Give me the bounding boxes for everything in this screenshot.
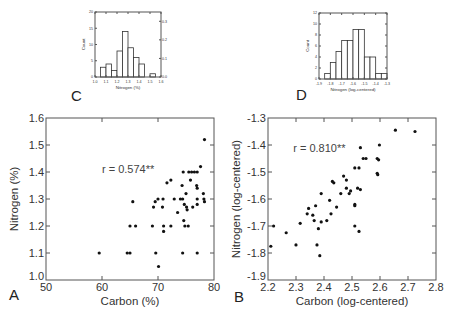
histogram-bar bbox=[106, 64, 112, 77]
data-point bbox=[162, 230, 165, 233]
data-point bbox=[128, 251, 131, 254]
y-tick-label: 1.5 bbox=[29, 139, 44, 151]
y-tick-label: 0 bbox=[315, 77, 317, 81]
data-point bbox=[320, 220, 323, 223]
data-point bbox=[187, 224, 190, 227]
data-point bbox=[186, 208, 189, 211]
y-tick-label: 6 bbox=[315, 44, 317, 48]
y-tick-label: 20 bbox=[89, 10, 93, 14]
y-tick-label: -1.7 bbox=[247, 220, 266, 232]
y-tick-label: 1.6 bbox=[29, 112, 44, 124]
data-point bbox=[311, 214, 314, 217]
x-tick-label: 1.5 bbox=[148, 80, 153, 84]
data-point bbox=[181, 197, 184, 200]
data-point bbox=[328, 199, 331, 202]
histogram-panel-d: -1.9-1.8-1.7-1.6-1.5-1.4-1.3024681012Nit… bbox=[296, 11, 390, 103]
y-tick-label: 1.2 bbox=[29, 220, 44, 232]
histogram-bar bbox=[353, 30, 359, 80]
panel-label: C bbox=[71, 87, 82, 104]
histogram-bar bbox=[381, 74, 387, 80]
x-tick-label: 60 bbox=[96, 281, 108, 293]
x-tick-label: 2.3 bbox=[288, 281, 303, 293]
data-point bbox=[377, 158, 380, 161]
histogram-bar bbox=[336, 52, 342, 80]
data-point bbox=[349, 189, 352, 192]
data-point bbox=[339, 192, 342, 195]
data-point bbox=[173, 197, 176, 200]
histogram-bar bbox=[347, 41, 353, 80]
y-tick-label: -1.5 bbox=[247, 166, 266, 178]
histogram-panel-c: 1.01.11.21.31.41.51.6051015200.00.10.20.… bbox=[71, 10, 167, 104]
y-tick-label: -1.4 bbox=[247, 139, 266, 151]
histogram-bar bbox=[325, 74, 331, 80]
data-point bbox=[183, 203, 186, 206]
y-tick-label: 10 bbox=[313, 22, 317, 26]
data-point bbox=[318, 254, 321, 257]
data-point bbox=[152, 206, 155, 209]
data-point bbox=[165, 181, 168, 184]
y-tick-label: 10 bbox=[89, 43, 93, 47]
x-tick-label: 1.2 bbox=[115, 80, 120, 84]
y-tick-label: 0 bbox=[91, 75, 93, 79]
panel-label: D bbox=[296, 86, 307, 103]
x-tick-label: 2.8 bbox=[428, 281, 443, 293]
data-point bbox=[151, 224, 154, 227]
y2-tick-label: 0.3 bbox=[162, 20, 167, 24]
histogram-bar bbox=[112, 71, 118, 78]
data-point bbox=[348, 192, 351, 195]
x-tick-label: 70 bbox=[152, 281, 164, 293]
x-tick-label: 2.7 bbox=[400, 281, 415, 293]
data-point bbox=[294, 243, 297, 246]
x-axis-title: Carbon (%) bbox=[101, 295, 160, 307]
data-point bbox=[203, 138, 206, 141]
panel-label: A bbox=[9, 286, 19, 303]
data-point bbox=[196, 203, 199, 206]
data-point bbox=[176, 211, 179, 214]
histogram-bar bbox=[139, 64, 145, 77]
x-tick-label: -1.5 bbox=[361, 82, 367, 86]
y-tick-label: -1.6 bbox=[247, 193, 266, 205]
histogram-bar bbox=[128, 48, 134, 77]
data-point bbox=[183, 224, 186, 227]
histogram-bar bbox=[101, 67, 107, 77]
data-point bbox=[353, 166, 356, 169]
data-point bbox=[161, 197, 164, 200]
y-tick-label: 1.1 bbox=[29, 247, 44, 259]
x-axis-title: Carbon (log-centered) bbox=[296, 295, 409, 307]
data-point bbox=[195, 184, 198, 187]
data-point bbox=[161, 206, 164, 209]
data-point bbox=[314, 204, 317, 207]
correlation-annotation: r = 0.810** bbox=[293, 142, 346, 154]
data-point bbox=[202, 192, 205, 195]
x-tick-label: 2.2 bbox=[260, 281, 275, 293]
data-point bbox=[353, 204, 356, 207]
data-point bbox=[98, 251, 101, 254]
data-point bbox=[196, 187, 199, 190]
scatter-panel-b: 2.22.32.42.52.62.72.8-1.3-1.4-1.5-1.6-1.… bbox=[230, 112, 444, 307]
data-point bbox=[269, 245, 272, 248]
histogram-bar bbox=[330, 63, 336, 80]
y-tick-label: 5 bbox=[91, 59, 93, 63]
data-point bbox=[196, 170, 199, 173]
histogram-bar bbox=[364, 57, 370, 79]
data-point bbox=[335, 206, 338, 209]
y2-tick-label: 0.2 bbox=[162, 38, 167, 42]
data-point bbox=[203, 200, 206, 203]
data-point bbox=[307, 207, 310, 210]
x-tick-label: -1.6 bbox=[350, 82, 356, 86]
x-tick-label: -1.8 bbox=[327, 82, 333, 86]
data-point bbox=[131, 200, 134, 203]
data-point bbox=[329, 212, 332, 215]
x-tick-label: 1.4 bbox=[137, 80, 142, 84]
data-point bbox=[189, 179, 192, 182]
y-tick-label: 4 bbox=[315, 55, 317, 59]
histogram-bar bbox=[359, 30, 365, 80]
data-point bbox=[187, 170, 190, 173]
x-tick-label: -1.3 bbox=[384, 82, 390, 86]
x-tick-label: 1.6 bbox=[159, 80, 164, 84]
y-tick-label: 12 bbox=[313, 11, 317, 15]
data-point bbox=[154, 200, 157, 203]
y-tick-label: 15 bbox=[89, 27, 93, 31]
x-tick-label: 50 bbox=[40, 281, 52, 293]
data-point bbox=[313, 219, 316, 222]
